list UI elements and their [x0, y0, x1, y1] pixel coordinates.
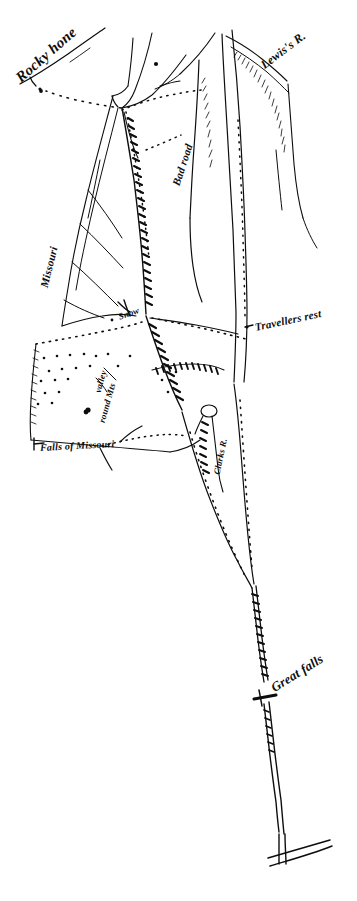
river-terminus-bar	[268, 834, 332, 866]
central-mountain-spine	[122, 108, 152, 314]
plains-valley-region	[30, 344, 200, 452]
map-drawing	[0, 0, 357, 901]
clarks-river-loop	[195, 405, 223, 492]
round-mountains-cluster	[85, 368, 116, 413]
plain-stipple	[37, 353, 178, 415]
great-falls-marker	[254, 690, 276, 706]
lower-trail-network	[100, 426, 186, 470]
snow-pass-marker	[111, 300, 130, 321]
ne-ridge-hachures	[234, 52, 285, 152]
river-below-great-falls	[264, 702, 284, 834]
lewiss-river-channel	[222, 30, 247, 382]
southeast-ridge-hachures	[149, 324, 183, 400]
dotted-trail-west	[30, 77, 121, 108]
clarks-ridge-hachures	[200, 422, 209, 473]
valley-divide	[36, 315, 246, 345]
missouri-tributaries	[64, 160, 123, 318]
bad-road-channel	[190, 60, 212, 302]
travellers-rest-marker	[245, 325, 253, 329]
bad-road-hachures	[202, 78, 212, 167]
lower-river-channel	[182, 384, 254, 588]
upper-tributaries	[112, 33, 215, 108]
southeast-ridge	[146, 316, 183, 410]
narrow-river-lower	[252, 586, 268, 682]
map-canvas: Rocky hone Lewis's R. Bad road Missouri …	[0, 0, 357, 901]
central-spine-hachures	[128, 118, 152, 305]
falls-of-missouri-marker	[34, 438, 44, 450]
